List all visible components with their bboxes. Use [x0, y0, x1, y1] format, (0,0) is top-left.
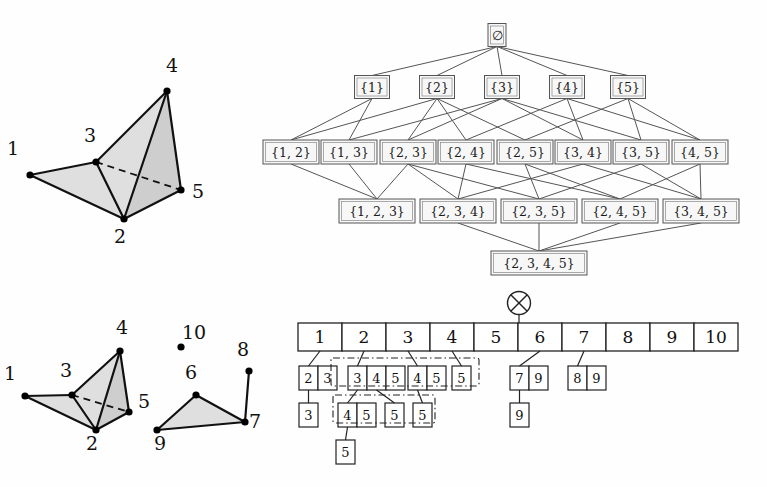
lattice-node-label: {1, 2}	[271, 145, 311, 160]
tree-cell-label: 5	[432, 371, 440, 386]
lattice-edge	[291, 164, 377, 199]
lattice-node-label: {5}	[616, 80, 640, 95]
tree-cell-label: 3	[353, 371, 361, 386]
tree-cell-label: 9	[534, 371, 542, 386]
complex-top-vertex-label-3: 3	[84, 124, 96, 146]
tree-connector	[348, 390, 358, 403]
tree-connector	[418, 390, 423, 403]
lattice-edge	[497, 47, 628, 76]
lattice-edge	[497, 47, 567, 76]
lattice-node-label: {4, 5}	[680, 145, 720, 160]
lattice-node-label: {2}	[425, 80, 449, 95]
tree-cell-label: 5	[341, 445, 349, 460]
lattice-edge	[620, 164, 700, 199]
lattice-edge	[641, 164, 701, 199]
lattice-edge	[539, 223, 701, 251]
complex-bottom-vertex-8	[245, 367, 252, 374]
lattice-edge	[567, 99, 583, 141]
lattice-node-label: {3, 4}	[563, 145, 603, 160]
complex-bottom-vertex-label-5: 5	[138, 390, 150, 412]
lattice-edge	[437, 47, 497, 76]
array-cell-label: 2	[359, 327, 370, 347]
complex-bottom-vertex-label-10: 10	[182, 321, 206, 343]
lattice-edge	[497, 47, 502, 76]
tree-cell-label: 5	[362, 408, 370, 423]
lattice-node-label: {2, 3, 5}	[511, 204, 567, 219]
complex-top-vertex-label-2: 2	[114, 225, 126, 247]
complex-bottom-vertex-label-7: 7	[249, 410, 261, 432]
complex-bottom-vertex-label-4: 4	[116, 316, 128, 338]
complex-top-vertex-label-5: 5	[192, 180, 204, 202]
lattice-edge	[458, 223, 539, 251]
lattice-edge	[539, 223, 620, 251]
lattice-node-label: {2, 4}	[446, 145, 486, 160]
figure-canvas: 1234512345678910∅{1}{2}{3}{4}{5}{1, 2}{1…	[0, 0, 767, 487]
complex-top-vertex-3	[92, 158, 99, 165]
tree-cell-label: 9	[515, 408, 523, 423]
complex-bottom-vertex-10	[177, 343, 184, 350]
lattice-node-label: {1, 2, 3}	[349, 204, 405, 219]
lattice-node-label: {4}	[555, 80, 579, 95]
array-cell-label: 9	[667, 327, 678, 347]
lattice-edge	[700, 164, 701, 199]
complex-bottom-vertex-6	[192, 391, 199, 398]
tree-cell-label: 8	[573, 371, 581, 386]
lattice-edge	[539, 164, 641, 199]
lattice-node-label: {2, 4, 5}	[592, 204, 648, 219]
tree-cell-label: 2	[304, 371, 312, 386]
lattice-node-label: {1}	[360, 80, 384, 95]
complex-bottom-vertex-1	[21, 392, 28, 399]
lattice-edge	[458, 164, 466, 199]
lattice-edge	[466, 164, 620, 199]
complex-bottom-vertex-label-6: 6	[185, 361, 197, 383]
array-cell-label: 3	[403, 327, 414, 347]
tree-cell-label: 5	[418, 408, 426, 423]
complex-bottom-vertex-label-2: 2	[86, 432, 98, 454]
lattice-edge	[291, 99, 372, 141]
tree-connector	[377, 390, 395, 403]
array-cell-label: 7	[579, 327, 590, 347]
lattice-edge	[291, 99, 437, 141]
tree-connector	[309, 351, 321, 366]
complex-bottom-vertex-label-1: 1	[4, 362, 16, 384]
tree-connector	[578, 351, 585, 366]
lattice-edge	[349, 99, 502, 141]
lattice-node-label: {3}	[490, 80, 514, 95]
array-cell-label: 10	[705, 327, 727, 347]
tree-connector	[520, 351, 541, 366]
lattice-node-label: {2, 3}	[388, 145, 428, 160]
lattice-edge	[525, 164, 539, 199]
complex-top-vertex-label-4: 4	[166, 54, 178, 76]
tree-cell-label: 3	[304, 408, 312, 423]
lattice-edge	[583, 164, 701, 199]
lattice-edge	[567, 99, 700, 141]
tree-cell-label: 5	[457, 371, 465, 386]
complex-bottom-vertex-3	[68, 391, 75, 398]
tree-cell-label: 9	[592, 371, 600, 386]
complex-top-vertex-1	[26, 171, 33, 178]
tree-cell-label: 3	[323, 371, 331, 386]
complex-bottom-vertex-label-3: 3	[60, 359, 72, 381]
array-cell-label: 6	[535, 327, 546, 347]
array-cell-label: 5	[491, 327, 502, 347]
lattice-node-label: {3, 4, 5}	[673, 204, 729, 219]
lattice-node-label: ∅	[492, 28, 503, 43]
lattice-node-label: {2, 3, 4}	[430, 204, 486, 219]
array-cell-label: 1	[315, 327, 326, 347]
lattice-edge	[408, 164, 458, 199]
lattice-edge	[372, 47, 497, 76]
complex-bottom-vertex-7	[241, 418, 248, 425]
tree-cell-label: 4	[372, 371, 380, 386]
complex-bottom-vertex-5	[125, 408, 132, 415]
lattice-edge	[525, 99, 628, 141]
tree-connector	[346, 427, 348, 440]
array-cell-label: 4	[447, 327, 458, 347]
complex-bottom-face-697	[157, 395, 245, 430]
complex-bottom-vertex-4	[116, 347, 123, 354]
figure-root: 1234512345678910∅{1}{2}{3}{4}{5}{1, 2}{1…	[0, 0, 767, 487]
complex-top-vertex-label-1: 1	[7, 137, 19, 159]
lattice-node-label: {3, 5}	[621, 145, 661, 160]
complex-bottom-vertex-label-8: 8	[237, 338, 249, 360]
lattice-node-label: {1, 3}	[329, 145, 369, 160]
tree-cell-label: 5	[390, 408, 398, 423]
